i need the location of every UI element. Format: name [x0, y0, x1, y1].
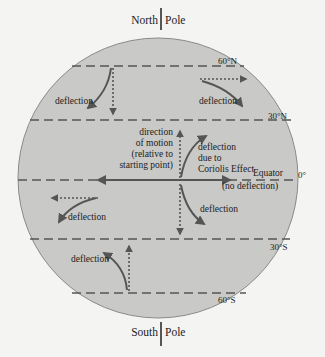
direction-label-line3: (relative to — [132, 149, 174, 160]
deflection-label-center: deflection — [200, 204, 238, 214]
south-label: South — [131, 326, 158, 338]
latitude-60n-label: 60°N — [218, 56, 238, 66]
direction-label-line2: of motion — [136, 138, 173, 148]
coriolis-label-line3: Coriolis Effect — [198, 164, 254, 174]
equator-degree-label: 0° — [298, 170, 307, 180]
direction-label-line1: direction — [139, 127, 173, 137]
coriolis-label-line1: deflection — [198, 142, 236, 152]
deflection-label-sw: deflection — [68, 212, 106, 222]
equator-label: Equator — [253, 168, 284, 178]
latitude-60s-label: 60°S — [218, 295, 236, 305]
coriolis-diagram: North Pole South Pole 60°N 30°N 0° 30°S … — [0, 0, 325, 357]
latitude-30n-label: 30°N — [268, 111, 288, 121]
coriolis-label-line2: due to — [198, 153, 222, 163]
north-pole-label: Pole — [165, 14, 185, 26]
north-label: North — [131, 14, 158, 26]
direction-label-line4: starting point) — [119, 160, 173, 171]
deflection-label-nw: deflection — [55, 96, 93, 106]
deflection-label-s: deflection — [71, 254, 109, 264]
deflection-label-ne: deflection — [199, 96, 237, 106]
no-deflection-label: (no deflection) — [222, 181, 278, 192]
globe — [18, 38, 298, 318]
latitude-30s-label: 30°S — [270, 242, 288, 252]
south-pole-label: Pole — [165, 326, 185, 338]
